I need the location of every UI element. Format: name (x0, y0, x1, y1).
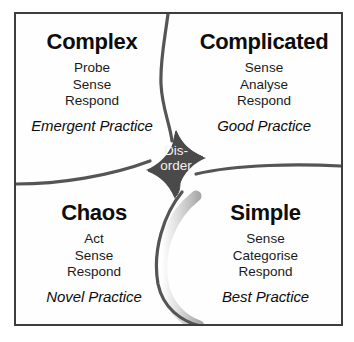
quadrant-simple-practice: Best Practice (193, 288, 338, 305)
quadrant-complicated: Complicated Sense Analyse Respond Good P… (188, 30, 340, 134)
step: Sense (193, 231, 338, 248)
quadrant-simple: Simple Sense Categorise Respond Best Pra… (193, 201, 338, 305)
cynefin-diagram: Complex Probe Sense Respond Emergent Pra… (0, 0, 354, 342)
quadrant-complicated-practice: Good Practice (188, 117, 340, 134)
quadrant-complex-steps: Probe Sense Respond (22, 60, 162, 110)
quadrant-chaos: Chaos Act Sense Respond Novel Practice (24, 201, 164, 305)
quadrant-complex-practice: Emergent Practice (22, 117, 162, 134)
step: Respond (193, 264, 338, 281)
quadrant-complicated-title: Complicated (188, 30, 340, 53)
quadrant-complex-title: Complex (22, 30, 162, 53)
step: Respond (22, 93, 162, 110)
step: Categorise (193, 248, 338, 265)
step: Act (24, 231, 164, 248)
disorder-label: Dis- order (146, 143, 206, 173)
quadrant-simple-steps: Sense Categorise Respond (193, 231, 338, 281)
quadrant-complicated-steps: Sense Analyse Respond (188, 60, 340, 110)
disorder-label-line-1: Dis- (146, 143, 206, 158)
quadrant-complex: Complex Probe Sense Respond Emergent Pra… (22, 30, 162, 134)
step: Analyse (188, 77, 340, 94)
quadrant-chaos-steps: Act Sense Respond (24, 231, 164, 281)
step: Sense (22, 77, 162, 94)
step: Respond (188, 93, 340, 110)
step: Respond (24, 264, 164, 281)
quadrant-chaos-title: Chaos (24, 201, 164, 224)
step: Sense (24, 248, 164, 265)
disorder-label-line-2: order (146, 158, 206, 173)
quadrant-chaos-practice: Novel Practice (24, 288, 164, 305)
step: Sense (188, 60, 340, 77)
quadrant-simple-title: Simple (193, 201, 338, 224)
step: Probe (22, 60, 162, 77)
